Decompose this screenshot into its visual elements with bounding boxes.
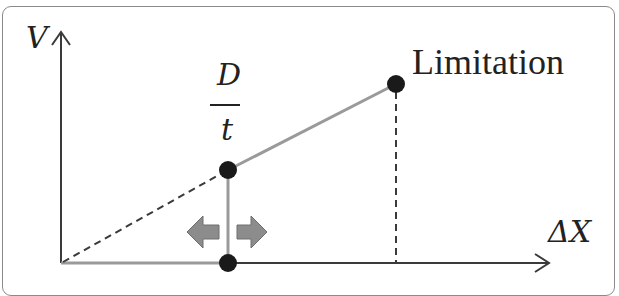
limitation-label: Limitation [412, 42, 564, 82]
x-axis [61, 254, 549, 272]
dashed-slope-line [63, 171, 226, 262]
fraction-denominator: t [221, 112, 234, 147]
solid-slope-line [228, 84, 396, 170]
point-d-over-t [219, 161, 237, 179]
y-axis [52, 32, 70, 263]
x-axis-label: ΔX [547, 214, 593, 249]
arrow-right-icon [237, 216, 267, 248]
point-axis [219, 254, 237, 272]
fraction-numerator: D [216, 57, 241, 92]
y-axis-label: V [26, 20, 51, 55]
point-limitation [387, 75, 405, 93]
arrow-left-icon [187, 216, 219, 248]
fraction-d-over-t: D t [210, 57, 241, 147]
